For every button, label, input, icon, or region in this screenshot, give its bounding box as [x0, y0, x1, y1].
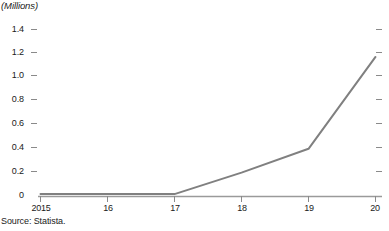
y-axis-label-1.2: 1.2 [2, 47, 24, 57]
x-axis-label-18: 18 [227, 203, 257, 213]
y-axis-label-0.8: 0.8 [2, 94, 24, 104]
y-axis-label-1.0: 1.0 [2, 70, 24, 80]
y-axis-label-0.6: 0.6 [2, 118, 24, 128]
y-axis-label-0.2: 0.2 [2, 166, 24, 176]
x-axis-label-17: 17 [160, 203, 190, 213]
chart-container: (Millions) [0, 0, 389, 231]
y-axis-label-0.4: 0.4 [2, 142, 24, 152]
x-axis-label-20: 20 [360, 203, 389, 213]
y-axis-ticks-left [31, 30, 37, 172]
y-axis-label-0: 0 [2, 190, 24, 200]
source-note: Source: Statista. [1, 216, 65, 226]
x-axis-label-16: 16 [93, 203, 123, 213]
x-axis-label-2015: 2015 [22, 203, 60, 213]
line-chart-plot [0, 0, 389, 231]
data-series-line [41, 57, 376, 194]
y-axis-ticks-right [376, 30, 382, 172]
x-axis-label-19: 19 [294, 203, 324, 213]
y-axis-label-1.4: 1.4 [2, 24, 24, 34]
